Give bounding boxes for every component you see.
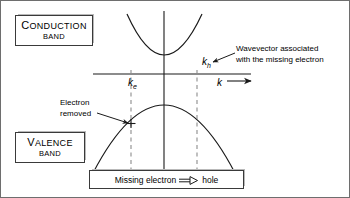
kh-label-sub: h: [207, 62, 211, 69]
electron-removed-note: Electron removed: [60, 98, 91, 119]
valence-band-label-cap: V: [27, 136, 35, 148]
wavevector-note: Wavevector associated with the missing e…: [236, 44, 324, 65]
conduction-band-label-line1: CONDUCTION: [16, 20, 92, 32]
valence-band-label-line2: BAND: [16, 149, 84, 159]
conduction-band-label-rest: ONDUCTION: [30, 21, 87, 31]
band-diagram-figure: CONDUCTION BAND VALENCE BAND Missing ele…: [0, 0, 350, 198]
ke-label-sub: e: [133, 83, 137, 90]
k-axis-label: k: [217, 77, 222, 88]
ke-label: ke: [128, 77, 137, 90]
wavevector-note-line1: Wavevector associated: [236, 44, 324, 55]
conduction-band-label-line2: BAND: [16, 32, 92, 42]
missing-electron-text: Missing electron: [115, 175, 176, 185]
electron-removed-line2: removed: [60, 109, 91, 120]
conduction-band-label-box: CONDUCTION BAND: [15, 15, 93, 46]
wavevector-note-line2: with the missing electron: [236, 55, 324, 66]
valence-band-label-line1: VALENCE: [16, 137, 84, 149]
conduction-band-label-cap: C: [21, 19, 29, 31]
hole-text: hole: [202, 175, 218, 185]
electron-removed-arrow: [97, 113, 128, 123]
electron-removed-line1: Electron: [60, 98, 91, 109]
wavevector-note-arrow: [213, 53, 235, 62]
valence-band-label-rest: ALENCE: [35, 138, 73, 148]
kh-label: kh: [202, 56, 211, 69]
removed-electron-plus-marker: [127, 119, 136, 128]
missing-electron-hole-box: Missing electron hole: [89, 170, 244, 189]
valence-band-label-box: VALENCE BAND: [15, 132, 85, 163]
double-arrow-icon: [179, 176, 199, 185]
